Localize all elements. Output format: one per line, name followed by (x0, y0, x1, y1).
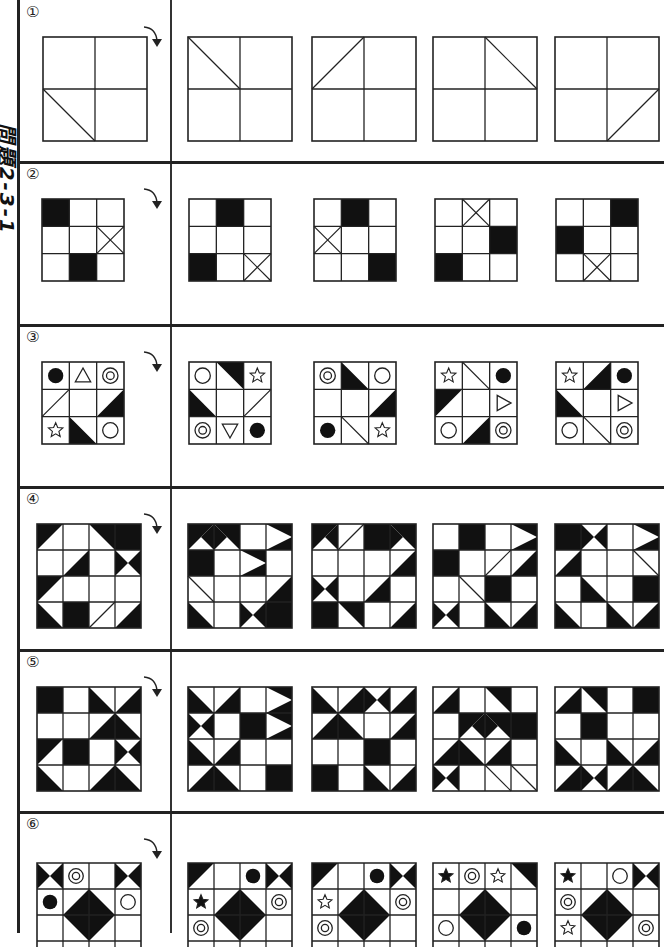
problem-row-2: ② (20, 162, 664, 324)
answer-option-2[interactable] (313, 361, 397, 445)
row-divider (20, 161, 664, 164)
row-divider (20, 811, 664, 814)
answer-option-3[interactable] (432, 36, 538, 142)
question-figure (41, 361, 125, 445)
row-divider (20, 649, 664, 652)
answer-option-4[interactable] (555, 198, 639, 282)
rotate-clockwise-arrow-icon (142, 674, 164, 700)
question-number: ② (26, 166, 39, 182)
question-number: ① (26, 4, 39, 20)
answer-option-3[interactable] (432, 523, 538, 629)
question-figure (36, 686, 142, 792)
rotate-clockwise-arrow-icon (142, 511, 164, 537)
rotate-clockwise-arrow-icon (142, 186, 164, 212)
answer-option-1[interactable] (187, 36, 293, 142)
side-title: 問題2-3-1 (0, 5, 17, 235)
question-number: ⑤ (26, 654, 39, 670)
question-number: ④ (26, 491, 39, 507)
problem-row-3: ③ (20, 325, 664, 487)
question-figure (36, 862, 142, 950)
problem-row-5: ⑤ (20, 650, 664, 812)
answer-option-2[interactable] (311, 862, 417, 950)
answer-option-2[interactable] (311, 686, 417, 792)
answer-option-1[interactable] (188, 198, 272, 282)
rotate-clockwise-arrow-icon (142, 836, 164, 862)
answer-option-1[interactable] (187, 686, 293, 792)
rotate-clockwise-arrow-icon (142, 349, 164, 375)
answer-option-3[interactable] (434, 361, 518, 445)
row-divider (20, 324, 664, 327)
answer-option-1[interactable] (187, 862, 293, 950)
answer-option-3[interactable] (432, 686, 538, 792)
problem-row-6: ⑥ (20, 812, 664, 951)
question-number: ③ (26, 329, 39, 345)
side-strip: 問題2-3-1 (0, 0, 17, 933)
question-figure (41, 198, 125, 282)
row-divider (20, 486, 664, 489)
answer-option-4[interactable] (554, 523, 660, 629)
question-number: ⑥ (26, 816, 39, 832)
answer-option-1[interactable] (187, 523, 293, 629)
problem-row-4: ④ (20, 487, 664, 649)
answer-option-4[interactable] (554, 686, 660, 792)
answer-option-1[interactable] (188, 361, 272, 445)
answer-option-2[interactable] (311, 36, 417, 142)
question-figure (42, 36, 148, 142)
answer-option-3[interactable] (434, 198, 518, 282)
question-figure (36, 523, 142, 629)
answer-option-2[interactable] (313, 198, 397, 282)
answer-option-2[interactable] (311, 523, 417, 629)
problem-row-1: ① (20, 0, 664, 162)
answer-option-4[interactable] (554, 36, 660, 142)
answer-option-4[interactable] (555, 361, 639, 445)
answer-option-4[interactable] (554, 862, 660, 950)
answer-option-3[interactable] (432, 862, 538, 950)
